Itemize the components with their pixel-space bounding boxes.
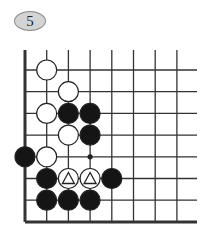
black-stone [15, 147, 35, 167]
white-stone [37, 147, 57, 167]
white-stone [58, 82, 78, 102]
black-stone [58, 190, 78, 210]
point-dot [88, 154, 93, 159]
black-stone [37, 169, 57, 189]
black-stone [80, 125, 100, 145]
black-stone [102, 169, 122, 189]
white-stone [37, 103, 57, 123]
white-stone [58, 125, 78, 145]
black-stone [80, 103, 100, 123]
black-stone [37, 190, 57, 210]
black-stone [58, 103, 78, 123]
black-stone [80, 190, 100, 210]
go-board [0, 0, 210, 241]
white-stone [37, 60, 57, 80]
